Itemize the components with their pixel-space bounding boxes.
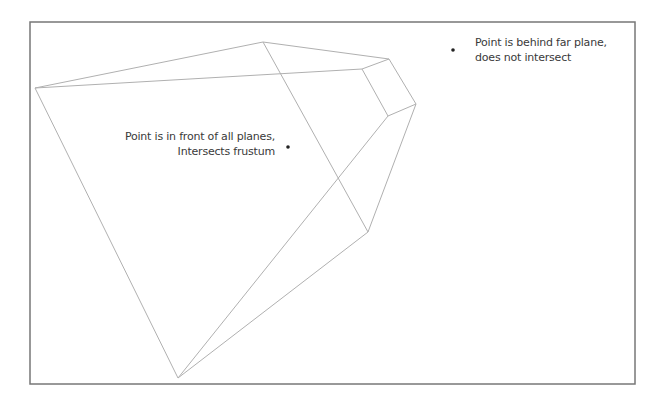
inside-point-dot (286, 145, 290, 149)
frustum-edge (389, 59, 416, 104)
behind-point-label-line-2: does not intersect (475, 50, 607, 65)
test-points (286, 48, 455, 149)
behind-point-label-line-1: Point is behind far plane, (475, 35, 607, 50)
behind-point-label: Point is behind far plane, does not inte… (475, 35, 607, 65)
inside-point-label-line-1: Point is in front of all planes, (125, 129, 275, 144)
behind-point-dot (451, 48, 455, 52)
frustum-edges (35, 42, 416, 378)
frustum-edge (178, 232, 368, 378)
frustum-edge (263, 42, 389, 59)
frustum-edge (263, 42, 368, 232)
inside-point-label-line-2: Intersects frustum (125, 144, 275, 159)
frustum-edge (368, 104, 416, 232)
frustum-edge (362, 59, 389, 69)
diagram-frame (30, 22, 635, 384)
frustum-edge (362, 69, 388, 116)
inside-point-label: Point is in front of all planes, Interse… (125, 129, 275, 159)
